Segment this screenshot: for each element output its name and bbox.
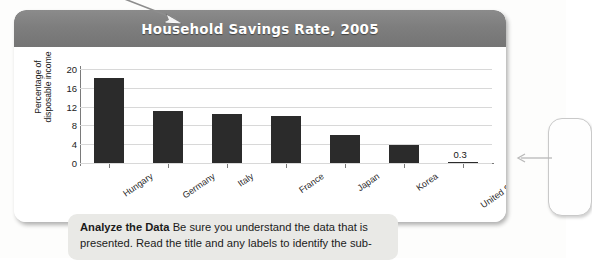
x-axis-category-label: Hungary [122, 171, 156, 199]
x-axis-category-label: United States [478, 171, 506, 210]
bar [271, 116, 301, 163]
side-callout-box [548, 118, 592, 216]
x-tick [168, 164, 169, 168]
y-tick-label: 12 [66, 101, 77, 112]
bar [212, 114, 242, 163]
bar [448, 162, 478, 163]
y-tick-label: 20 [66, 64, 77, 75]
y-tick-label: 8 [72, 120, 77, 131]
bar-value-label: 0.3 [454, 149, 467, 160]
caption-card: Analyze the Data Be sure you understand … [68, 214, 398, 260]
x-tick [286, 164, 287, 168]
chart-plot-region: Percentage of disposable income 20161284… [14, 47, 506, 222]
x-tick [227, 164, 228, 168]
y-tick-label: 4 [72, 139, 77, 150]
x-axis-category-label: France [297, 171, 326, 195]
x-tick [109, 164, 110, 168]
gridline [80, 88, 492, 89]
caption-text: Analyze the Data Be sure you understand … [80, 220, 386, 251]
bar [389, 145, 419, 163]
x-axis-category-label: Germany [181, 171, 217, 200]
y-tick-label: 16 [66, 82, 77, 93]
y-axis-tick-labels: 201612840 [58, 69, 77, 163]
x-tick [345, 164, 346, 168]
bar [330, 135, 360, 163]
y-axis-title: Percentage of disposable income [33, 39, 53, 135]
y-axis-title-line2: disposable income [43, 51, 53, 122]
chart-title-bar: Household Savings Rate, 2005 [14, 10, 506, 47]
y-tick-label: 0 [72, 158, 77, 169]
bar [94, 78, 124, 163]
chart-title: Household Savings Rate, 2005 [141, 21, 379, 37]
chart-card: Household Savings Rate, 2005 Percentage … [14, 10, 506, 222]
x-axis-category-label: Japan [355, 171, 381, 193]
x-tick [463, 164, 464, 168]
gridline [80, 69, 492, 70]
gridline [80, 107, 492, 108]
x-axis-category-label: Korea [414, 171, 439, 193]
plot-area [80, 69, 492, 163]
caption-lead: Analyze the Data [80, 221, 170, 233]
x-axis-category-label: Italy [236, 171, 255, 189]
bar [153, 111, 183, 163]
y-axis-title-line1: Percentage of [33, 60, 43, 114]
x-tick [404, 164, 405, 168]
callout-leader-arrow-icon [512, 152, 552, 164]
